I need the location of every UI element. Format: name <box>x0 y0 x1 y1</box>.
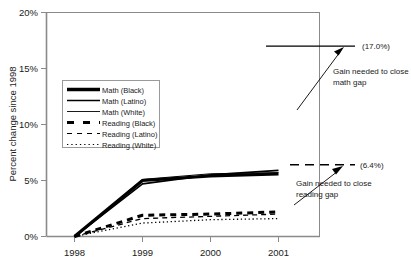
reading-gap-arrow-shaft <box>294 171 338 205</box>
legend-label-reading-white: Reading (White) <box>102 141 157 150</box>
legend-label-math-latino: Math (Latino) <box>102 97 147 106</box>
math-gap-caption-line2: math gap <box>333 78 367 87</box>
reading-gap-caption-line1: Gain needed to close <box>296 179 372 188</box>
y-tick-labels: 20% 15% 10% 5% 0% <box>19 7 39 242</box>
legend-label-reading-black: Reading (Black) <box>102 119 156 128</box>
y-tick-label-5: 5% <box>24 175 38 186</box>
legend-label-reading-latino: Reading (Latino) <box>102 130 158 139</box>
x-tick-label-1999: 1999 <box>132 247 153 258</box>
series-line-math-white <box>75 173 279 237</box>
x-tick-label-2001: 2001 <box>268 247 289 258</box>
annotation-reading-gap: (6.4%) Gain needed to close reading gap <box>290 161 384 205</box>
reading-gap-caption-line2: reading gap <box>296 190 339 199</box>
annotation-math-gap: (17.0%) Gain needed to close math gap <box>266 42 409 110</box>
y-tick-label-20: 20% <box>19 7 39 18</box>
series-line-math-latino <box>75 170 279 236</box>
legend-label-math-black: Math (Black) <box>102 86 145 95</box>
math-gap-value-label: (17.0%) <box>362 42 390 51</box>
reading-gap-arrow-head <box>332 166 343 175</box>
series-line-reading-white <box>75 219 279 237</box>
math-gap-caption-line1: Gain needed to close <box>333 67 409 76</box>
legend: Math (Black) Math (Latino) Math (White) … <box>63 81 160 150</box>
legend-label-math-white: Math (White) <box>102 108 145 117</box>
series-line-reading-latino <box>75 214 279 236</box>
y-tick-label-10: 10% <box>19 119 39 130</box>
series-line-math-black <box>75 174 279 237</box>
x-tick-labels: 1998 1999 2000 2001 <box>64 247 289 258</box>
x-tick-label-2000: 2000 <box>200 247 221 258</box>
x-tick-label-1998: 1998 <box>64 247 85 258</box>
y-tick-label-15: 15% <box>19 63 39 74</box>
chart-figure: 20% 15% 10% 5% 0% 1998 1999 2000 2001 Pe… <box>0 0 411 271</box>
data-series-layer <box>75 170 279 236</box>
y-axis-title: Percent change since 1998 <box>7 66 18 181</box>
y-tick-label-0: 0% <box>24 231 38 242</box>
reading-gap-value-label: (6.4%) <box>360 161 384 170</box>
math-gap-arrow-head <box>334 47 344 56</box>
